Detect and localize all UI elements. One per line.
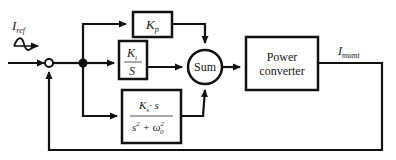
kp-to-sum-line xyxy=(172,24,205,43)
output-label-imumt: Imumt xyxy=(337,44,361,60)
control-block-diagram: Iref Kp Ki S Ks· s s2 + ω2 xyxy=(0,0,396,160)
svg-text:Power: Power xyxy=(267,50,298,64)
svg-text:Imumt: Imumt xyxy=(337,44,361,60)
sum-block: Sum xyxy=(188,50,222,84)
svg-text:converter: converter xyxy=(259,64,304,78)
ks-block: Ks· s s2 + ω20 xyxy=(122,90,181,143)
error-junction xyxy=(45,59,53,67)
power-converter-block: Power converter xyxy=(246,37,318,90)
kp-block: Kp xyxy=(133,12,172,37)
ks-to-sum-line xyxy=(181,90,205,116)
branch-line-ks xyxy=(83,63,117,116)
ki-block: Ki S xyxy=(119,41,147,79)
sine-wave-source-icon xyxy=(14,38,38,50)
svg-text:Sum: Sum xyxy=(194,60,217,74)
svg-text:S: S xyxy=(129,64,135,78)
input-label-iref: Iref xyxy=(11,18,27,35)
svg-text:Iref: Iref xyxy=(11,18,27,35)
